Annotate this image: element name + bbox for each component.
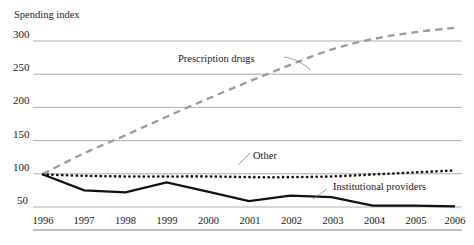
y-tick-label-100: 100 — [13, 161, 30, 173]
x-tick-label-2001: 2001 — [240, 215, 261, 226]
x-tick-label-1996: 1996 — [33, 215, 54, 226]
x-tick-label-1998: 1998 — [115, 215, 136, 226]
y-tick-label-250: 250 — [13, 61, 30, 73]
x-tick-label-2000: 2000 — [198, 215, 219, 226]
chart-canvas: Spending index 300 250 200 150 100 50 19… — [0, 0, 474, 245]
x-tick-label-1999: 1999 — [157, 215, 178, 226]
series-line-prescription-drugs — [43, 28, 455, 174]
y-tick-label-200: 200 — [13, 94, 30, 106]
series-annotation-institutional-providers: Institutional providers — [333, 181, 426, 192]
x-tick-labels: 1996 1997 1998 1999 2000 2001 2002 2003 … — [33, 215, 466, 226]
x-tick-label-2002: 2002 — [281, 215, 302, 226]
x-tick-label-1997: 1997 — [74, 215, 95, 226]
leader-line-other — [238, 153, 250, 165]
x-tick-label-2006: 2006 — [445, 215, 466, 226]
spending-index-line-chart: Spending index 300 250 200 150 100 50 19… — [0, 0, 474, 245]
x-tick-label-2005: 2005 — [406, 215, 427, 226]
x-tick-label-2003: 2003 — [323, 215, 344, 226]
leader-line-prescription-drugs — [284, 57, 311, 70]
y-tick-label-50: 50 — [17, 194, 29, 206]
y-tick-label-300: 300 — [13, 28, 30, 40]
x-tick-label-2004: 2004 — [364, 215, 386, 226]
series-annotation-other: Other — [253, 150, 277, 161]
y-axis-title: Spending index — [14, 9, 80, 20]
series-annotation-prescription-drugs: Prescription drugs — [178, 53, 255, 64]
y-tick-label-150: 150 — [13, 128, 30, 140]
y-tick-labels: 300 250 200 150 100 50 — [13, 28, 30, 206]
